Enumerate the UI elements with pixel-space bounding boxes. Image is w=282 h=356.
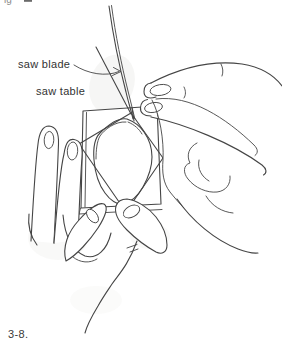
figure-page: ig saw blade saw table 3-8. [0,0,282,356]
saw-table-label: saw table [36,85,85,97]
figure-caption: 3-8. [8,328,29,340]
hand-sawing-illustration: ig saw blade saw table 3-8. [0,0,282,356]
cropped-text-fragment: ig [4,0,32,5]
left-curled-finger [73,257,97,262]
saw-table-surface [81,106,161,208]
saw-blade-label: saw blade [18,58,70,70]
cropped-text: ig [4,0,12,5]
cropped-text-mark [24,0,32,2]
